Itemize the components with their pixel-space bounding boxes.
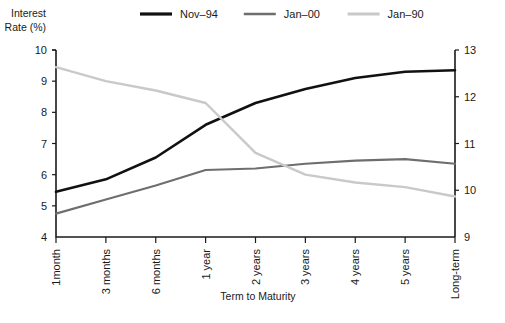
right-axis-tick-label: 9 [464,231,470,243]
left-axis-tick-label: 8 [41,106,47,118]
x-axis-tick-label: 1month [50,249,62,286]
x-axis-title: Term to Maturity [220,290,296,302]
legend-label-jan-00: Jan–00 [284,8,320,20]
left-axis-tick-label: 6 [41,169,47,181]
right-axis-tick-label: 12 [464,91,476,103]
left-axis-tick-label: 5 [41,200,47,212]
x-axis-tick-label: 2 years [250,249,262,286]
left-axis-tick-label: 4 [41,231,47,243]
x-axis-tick-label: 3 months [100,249,112,295]
x-axis-tick-label: 5 years [399,249,411,286]
right-axis-tick-label: 13 [464,44,476,56]
legend-label-nov-94: Nov–94 [180,8,218,20]
right-axis-tick-label: 11 [464,138,475,150]
x-axis-tick-label: 1 year [200,249,212,280]
legend-label-jan-90: Jan–90 [388,8,424,20]
left-axis-tick-label: 7 [41,138,47,150]
chart-canvas: 456789109101112131month3 months6 months1… [0,0,505,323]
series-line-nov-94 [56,70,455,192]
left-and-bottom-axis-spine [56,50,455,237]
x-axis-tick-label: 6 months [150,249,162,295]
x-axis-tick-label: 3 years [299,249,311,286]
left-axis-tick-label: 10 [35,44,47,56]
x-axis-tick-label: Long-term [449,249,461,299]
series-line-jan-90 [56,67,455,196]
right-axis-tick-label: 10 [464,184,476,196]
y-axis-title-line1: Interest [11,7,46,19]
y-axis-title-line2: Rate (%) [5,21,46,33]
interest-rate-yield-curve-chart: 456789109101112131month3 months6 months1… [0,0,505,323]
x-axis-tick-label: 4 years [349,249,361,286]
left-axis-tick-label: 9 [41,75,47,87]
